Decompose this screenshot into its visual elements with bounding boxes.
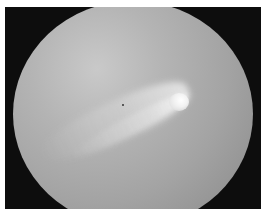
comet-head	[169, 93, 189, 111]
photo-frame	[5, 7, 261, 209]
star-point	[122, 104, 124, 106]
